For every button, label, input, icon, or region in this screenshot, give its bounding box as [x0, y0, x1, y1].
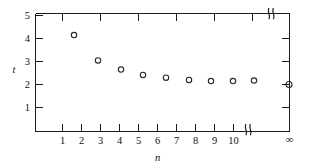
- x-tick-label: 5: [136, 135, 141, 146]
- data-point: [140, 72, 145, 77]
- data-point: [71, 32, 76, 37]
- y-tick-label: 3: [25, 56, 30, 67]
- data-point: [118, 67, 123, 72]
- axis-break-bottom-icon: [245, 124, 251, 135]
- x-tick-label: 1: [60, 135, 65, 146]
- data-point: [163, 75, 168, 80]
- data-point: [208, 78, 213, 83]
- x-tick-label: 4: [117, 135, 123, 146]
- x-tick-label: 6: [155, 135, 160, 146]
- data-points: [71, 32, 292, 87]
- x-tick-label: 3: [98, 135, 103, 146]
- data-point: [95, 58, 100, 63]
- x-axis-ticks: [63, 124, 234, 132]
- plot-frame: [36, 14, 290, 132]
- y-tick-label: 5: [25, 10, 30, 21]
- y-axis-title: t: [13, 64, 17, 75]
- x-tick-label: 8: [193, 135, 198, 146]
- x-tick-label: 2: [79, 135, 84, 146]
- y-tick-label: 1: [25, 102, 30, 113]
- y-axis-ticks: [36, 16, 44, 108]
- x-axis-title: n: [155, 152, 160, 163]
- x-tick-label: 7: [174, 135, 179, 146]
- x-tick-label: 10: [228, 135, 239, 146]
- data-point: [230, 78, 235, 83]
- x-tick-label: 9: [212, 135, 217, 146]
- data-point: [251, 78, 256, 83]
- scatter-plot: 5 4 3 2 1 1 2 3 4 5 6 7 8 9 10 ∞ t n: [0, 0, 310, 168]
- top-axis-ticks: [63, 14, 253, 22]
- chart-figure: 5 4 3 2 1 1 2 3 4 5 6 7 8 9 10 ∞ t n: [0, 0, 310, 168]
- data-point: [186, 77, 191, 82]
- x-tick-labels: 1 2 3 4 5 6 7 8 9 10 ∞: [60, 133, 294, 146]
- x-tick-label-infinity: ∞: [286, 133, 294, 145]
- y-tick-label: 4: [25, 33, 31, 44]
- right-axis-ticks: [282, 39, 290, 108]
- y-tick-labels: 5 4 3 2 1: [25, 10, 31, 113]
- y-tick-label: 2: [25, 79, 30, 90]
